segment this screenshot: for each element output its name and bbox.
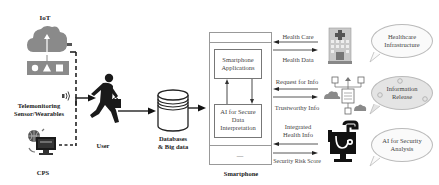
- bubble-3-line2: Analysis: [382, 145, 421, 153]
- bubble-1-line1: Healthcare: [384, 33, 419, 41]
- flow-health-care: Health Care: [277, 33, 319, 41]
- info-network-icon: [330, 75, 366, 117]
- bubble-1-line2: Infrastructure: [384, 41, 419, 49]
- bubble-1-tail: [370, 52, 382, 64]
- flow-request-info: Request for Info: [273, 78, 321, 86]
- flow-trustworthy-info: Trustworthy Info: [273, 104, 321, 112]
- bubble-3-line1: AI for Security: [382, 137, 421, 145]
- bubble-3-tail: [370, 156, 382, 168]
- ai-security-computer-icon: [328, 122, 358, 166]
- hospital-building-icon: [328, 26, 352, 64]
- flow-integrated-2: Health Info: [277, 131, 319, 139]
- bubble-2-tail: [370, 104, 382, 116]
- flow-health-data: Health Data: [277, 56, 319, 64]
- flow-risk-score: Security Risk Score: [270, 158, 324, 166]
- flow-integrated-1: Integrated: [277, 123, 319, 131]
